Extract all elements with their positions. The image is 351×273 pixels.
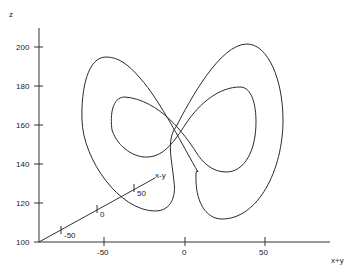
orbit-curves [0,0,351,273]
inner-orbit [111,87,256,172]
